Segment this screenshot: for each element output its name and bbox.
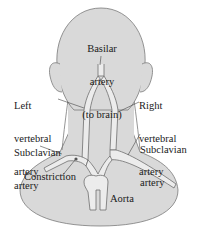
label-line: Left [14, 100, 51, 111]
label-line: artery [78, 76, 126, 87]
artery-diagram: Basilar artery (to brain) Left vertebral… [0, 0, 202, 231]
label-aorta: Aorta [110, 193, 134, 204]
label-constriction: Constriction [24, 171, 76, 182]
label-right-subclavian-artery: Subclavian artery [140, 122, 187, 210]
label-left-subclavian-artery: Subclavian artery [14, 125, 61, 213]
label-line: Basilar [78, 43, 126, 54]
label-line: Subclavian [14, 147, 61, 158]
left-ear [49, 63, 62, 92]
label-line: (to brain) [78, 109, 126, 120]
label-line: artery [140, 177, 187, 188]
label-basilar-artery: Basilar artery (to brain) [78, 21, 126, 142]
label-line: Right [139, 100, 176, 111]
label-line: Subclavian [140, 144, 187, 155]
